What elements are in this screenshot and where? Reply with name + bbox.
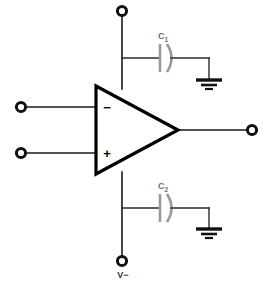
schematic-canvas: − + C1 C2 bbox=[0, 0, 273, 287]
output-terminal[interactable] bbox=[247, 125, 256, 134]
ground-symbol-bottom bbox=[196, 229, 222, 238]
circuit-schematic: − + C1 C2 bbox=[0, 0, 273, 287]
noninverting-input-sign: + bbox=[103, 146, 111, 161]
capacitor-c1-subscript: 1 bbox=[165, 36, 169, 43]
ground-symbol-top bbox=[196, 80, 222, 89]
positive-supply-terminal[interactable] bbox=[117, 6, 126, 15]
negative-supply-terminal[interactable] bbox=[117, 256, 126, 265]
capacitor-c1-label: C1 bbox=[158, 31, 169, 43]
noninverting-input-terminal[interactable] bbox=[16, 148, 25, 157]
inverting-input-sign: − bbox=[103, 100, 111, 115]
capacitor-c2-label: C2 bbox=[158, 181, 169, 193]
inverting-input-terminal[interactable] bbox=[16, 102, 25, 111]
capacitor-c2-subscript: 2 bbox=[165, 186, 169, 193]
negative-supply-label: V− bbox=[117, 270, 128, 280]
